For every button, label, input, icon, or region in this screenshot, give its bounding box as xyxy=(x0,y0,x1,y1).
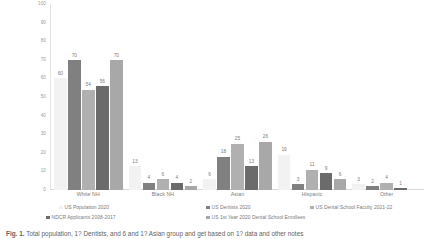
legend-item[interactable]: US Dental School Faculty 2021-22 xyxy=(310,205,392,210)
bar-value-label: 60 xyxy=(58,72,63,77)
bar-group: 1931196 xyxy=(275,4,350,190)
bar[interactable]: 2 xyxy=(185,186,198,190)
bar-group: 3241 xyxy=(349,4,424,190)
legend-label: US 1st Year 2020 Dental School Enrollees xyxy=(212,215,306,220)
bar-group: 134642 xyxy=(126,4,201,190)
bar-slot: 60 xyxy=(54,4,67,190)
bar-value-label: 13 xyxy=(132,160,137,165)
bar-value-label: 19 xyxy=(281,148,286,153)
bar[interactable]: 70 xyxy=(68,60,81,190)
bar[interactable]: 1 xyxy=(394,188,407,190)
legend-item[interactable]: US Population 2020 xyxy=(59,205,109,210)
bar[interactable]: 3 xyxy=(352,184,365,190)
bar[interactable]: 6 xyxy=(334,179,347,190)
bar-value-label: 56 xyxy=(100,80,105,85)
bar-slot: 6 xyxy=(157,4,170,190)
bar-value-label: 9 xyxy=(325,167,328,172)
bar-value-label: 25 xyxy=(235,137,240,142)
bar-slot: 4 xyxy=(171,4,184,190)
bar-slot: 26 xyxy=(259,4,272,190)
y-axis-tick: 60 xyxy=(41,76,46,81)
bar-value-label: 6 xyxy=(339,173,342,178)
bar[interactable]: 19 xyxy=(278,155,291,190)
bar-slot xyxy=(408,4,421,190)
bar-group: 6070545670 xyxy=(51,4,126,190)
x-axis-category-label: Black NH xyxy=(126,192,201,197)
bar-value-label: 18 xyxy=(221,150,226,155)
bar-slot: 3 xyxy=(292,4,305,190)
figure-caption: Fig. 1. Total population, 1? Dentists, a… xyxy=(6,230,426,239)
x-axis-category-label: Hispanic xyxy=(275,192,350,197)
bar-slot: 13 xyxy=(245,4,258,190)
bar-slot: 18 xyxy=(217,4,230,190)
legend-label: NDCR Applicants 2008-2017 xyxy=(52,215,116,220)
bar-value-label: 13 xyxy=(249,160,254,165)
figure-label: Fig. 1. xyxy=(6,230,26,237)
bar-groups: 607054567013464261825132619311963241 xyxy=(51,4,424,190)
legend-item[interactable]: US Dentists 2020 xyxy=(206,205,251,210)
y-axis-tick: 80 xyxy=(41,39,46,44)
legend-swatch-icon xyxy=(46,216,50,220)
legend-swatch-icon xyxy=(310,206,314,210)
bar-value-label: 4 xyxy=(385,176,388,181)
bar-slot: 3 xyxy=(352,4,365,190)
y-axis-tick: 40 xyxy=(41,113,46,118)
bar[interactable]: 25 xyxy=(231,144,244,191)
bar-slot: 2 xyxy=(366,4,379,190)
bar-slot: 54 xyxy=(82,4,95,190)
y-axis-tick: 20 xyxy=(41,151,46,156)
bar-value-label: 54 xyxy=(86,83,91,88)
y-axis-tick: 30 xyxy=(41,132,46,137)
plot-area: 1009080706050403020100 60705456701346426… xyxy=(26,4,424,190)
y-axis-tick: 100 xyxy=(38,2,46,7)
bar-slot: 11 xyxy=(306,4,319,190)
category-labels: White NHBlack NHAsianHispanicOther xyxy=(51,192,424,197)
legend-item[interactable]: NDCR Applicants 2008-2017 xyxy=(46,215,116,220)
y-axis-tick: 10 xyxy=(41,169,46,174)
figure-caption-text: Total population, 1? Dentists, and 6 and… xyxy=(26,230,303,237)
bar-value-label: 3 xyxy=(357,178,360,183)
bar-value-label: 3 xyxy=(297,178,300,183)
bar-value-label: 1 xyxy=(399,182,402,187)
bar-slot: 2 xyxy=(185,4,198,190)
bar-value-label: 2 xyxy=(190,180,193,185)
bar[interactable]: 18 xyxy=(217,157,230,190)
bar-slot: 1 xyxy=(394,4,407,190)
y-axis-tick: 0 xyxy=(43,188,46,193)
bar-value-label: 26 xyxy=(263,135,268,140)
bar-value-label: 4 xyxy=(176,176,179,181)
bar-slot: 6 xyxy=(334,4,347,190)
bar[interactable]: 26 xyxy=(259,142,272,190)
x-axis-category-label: Asian xyxy=(200,192,275,197)
bar[interactable]: 4 xyxy=(143,183,156,190)
y-axis-tick: 50 xyxy=(41,95,46,100)
bar[interactable]: 4 xyxy=(380,183,393,190)
bar[interactable]: 13 xyxy=(245,166,258,190)
bar[interactable]: 56 xyxy=(96,86,109,190)
bar-chart: 1009080706050403020100 60705456701346426… xyxy=(0,0,430,239)
bar-slot: 4 xyxy=(143,4,156,190)
bar[interactable]: 2 xyxy=(366,186,379,190)
bar[interactable]: 4 xyxy=(171,183,184,190)
bar[interactable]: 11 xyxy=(306,170,319,190)
bar-slot: 9 xyxy=(320,4,333,190)
bar[interactable]: 54 xyxy=(82,90,95,190)
bar[interactable]: 13 xyxy=(129,166,142,190)
y-axis-tick: 70 xyxy=(41,58,46,63)
legend-item[interactable]: US 1st Year 2020 Dental School Enrollees xyxy=(206,215,305,220)
bar-slot: 4 xyxy=(380,4,393,190)
bar[interactable]: 3 xyxy=(292,184,305,190)
bar[interactable]: 6 xyxy=(157,179,170,190)
bar[interactable]: 60 xyxy=(54,78,67,190)
bar-value-label: 2 xyxy=(371,180,374,185)
y-axis: 1009080706050403020100 xyxy=(26,4,48,190)
bar-value-label: 4 xyxy=(148,176,151,181)
bar[interactable]: 9 xyxy=(320,173,333,190)
legend-swatch-icon xyxy=(59,206,63,210)
bar-slot: 25 xyxy=(231,4,244,190)
bar[interactable]: 6 xyxy=(203,179,216,190)
bar-value-label: 70 xyxy=(72,54,77,59)
bar-slot: 70 xyxy=(68,4,81,190)
bar-slot: 6 xyxy=(203,4,216,190)
bar[interactable]: 70 xyxy=(110,60,123,190)
